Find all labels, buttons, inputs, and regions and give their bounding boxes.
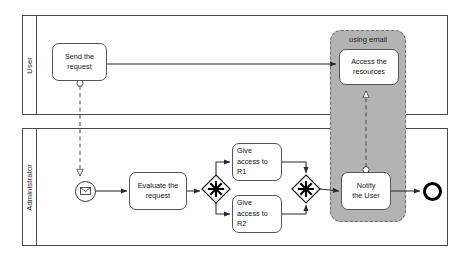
task-label: Give access to R2 — [237, 198, 268, 230]
task-evaluate-the-request[interactable]: Evaluate the request — [129, 172, 187, 210]
flow-split-to-r2 — [216, 203, 230, 214]
gateway-complex-join[interactable] — [292, 175, 320, 203]
asterisk-icon — [298, 181, 314, 197]
flow-r2-to-join — [282, 205, 306, 214]
task-give-access-to-r2[interactable]: Give access to R2 — [232, 195, 282, 233]
bpmn-diagram-canvas: User Administrator using email — [0, 0, 473, 263]
task-send-the-request[interactable]: Send the request — [52, 43, 107, 81]
message-start-event[interactable] — [75, 181, 96, 202]
gateway-complex-split[interactable] — [202, 175, 230, 203]
task-access-the-resources[interactable]: Access the resources — [339, 49, 399, 85]
flow-join-to-notify — [320, 189, 339, 191]
asterisk-icon — [208, 181, 224, 197]
task-give-access-to-r1[interactable]: Give access to R1 — [232, 143, 282, 181]
flow-split-to-r1 — [216, 162, 230, 175]
task-label: Give access to R1 — [237, 146, 268, 178]
task-label: Send the request — [65, 52, 94, 73]
task-label: Access the resources — [351, 57, 387, 78]
end-event[interactable] — [423, 182, 442, 201]
msgflow-source-dot-send-request — [77, 80, 83, 86]
task-notify-the-user[interactable]: Notify the User — [341, 172, 391, 210]
flow-r1-to-join — [282, 162, 306, 173]
envelope-icon — [80, 187, 91, 195]
task-label: Evaluate the request — [138, 181, 179, 202]
task-label: Notify the User — [352, 181, 380, 202]
